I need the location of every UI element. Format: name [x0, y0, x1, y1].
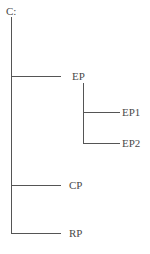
node-cp-label: CP — [69, 179, 82, 191]
node-ep-label: EP — [72, 70, 85, 82]
node-ep1-label: EP1 — [122, 106, 140, 118]
tree-diagram: C: EP EP1 EP2 CP RP — [0, 0, 150, 254]
tree-connectors — [0, 0, 150, 254]
node-rp-label: RP — [69, 227, 82, 239]
root-node-label: C: — [6, 5, 16, 17]
node-ep2-label: EP2 — [122, 137, 140, 149]
